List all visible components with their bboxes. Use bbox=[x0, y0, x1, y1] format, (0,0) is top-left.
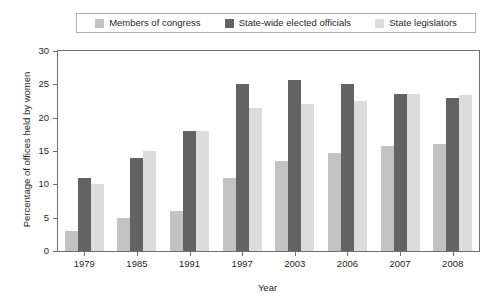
bar bbox=[433, 144, 446, 251]
x-axis-tick bbox=[137, 251, 138, 256]
x-axis-tick bbox=[190, 251, 191, 256]
x-axis-tick bbox=[453, 251, 454, 256]
chart-legend: Members of congress State-wide elected o… bbox=[76, 13, 476, 33]
bar bbox=[78, 178, 91, 251]
x-axis-tick-label: 1997 bbox=[232, 258, 253, 269]
legend-item-state-wide-elected-officials: State-wide elected officials bbox=[225, 18, 351, 28]
legend-item-members-of-congress: Members of congress bbox=[95, 18, 200, 28]
plot-area: 051015202530 197919851991199720032006200… bbox=[57, 50, 480, 252]
y-axis-tick-label: 15 bbox=[38, 145, 49, 156]
bar bbox=[249, 108, 262, 251]
y-axis-tick-label: 20 bbox=[38, 112, 49, 123]
x-axis-tick bbox=[347, 251, 348, 256]
legend-swatch-icon bbox=[375, 19, 384, 28]
bar bbox=[65, 231, 78, 251]
bar bbox=[183, 131, 196, 251]
x-axis-tick-label: 1985 bbox=[126, 258, 147, 269]
y-axis-tick-label: 5 bbox=[44, 212, 49, 223]
legend-label: Members of congress bbox=[109, 18, 200, 28]
bar-group bbox=[321, 51, 374, 251]
legend-swatch-icon bbox=[95, 19, 104, 28]
bar-group bbox=[374, 51, 427, 251]
y-axis-tick-label: 10 bbox=[38, 178, 49, 189]
x-axis-tick-label: 1991 bbox=[179, 258, 200, 269]
legend-item-state-legislators: State legislators bbox=[375, 18, 457, 28]
x-axis-tick bbox=[242, 251, 243, 256]
x-axis-label: Year bbox=[57, 282, 478, 293]
bar bbox=[407, 94, 420, 251]
bar bbox=[130, 158, 143, 251]
bar bbox=[341, 84, 354, 251]
bar bbox=[223, 178, 236, 251]
bar bbox=[394, 94, 407, 251]
x-axis-tick bbox=[295, 251, 296, 256]
x-axis-tick-label: 2006 bbox=[337, 258, 358, 269]
bar-group bbox=[111, 51, 164, 251]
x-axis-tick-label: 2003 bbox=[284, 258, 305, 269]
legend-label: State-wide elected officials bbox=[239, 18, 351, 28]
bar bbox=[381, 146, 394, 251]
bar bbox=[275, 161, 288, 251]
bar-group bbox=[216, 51, 269, 251]
bar bbox=[117, 218, 130, 251]
x-axis-tick bbox=[400, 251, 401, 256]
y-axis-tick: 0 bbox=[53, 251, 58, 252]
x-axis-tick-label: 2007 bbox=[389, 258, 410, 269]
legend-swatch-icon bbox=[225, 19, 234, 28]
bar-group bbox=[269, 51, 322, 251]
bar bbox=[459, 95, 472, 251]
bar bbox=[196, 131, 209, 251]
x-axis-tick-label: 2008 bbox=[442, 258, 463, 269]
bar-chart: Percentage of offices held by women 0510… bbox=[0, 40, 494, 305]
x-axis-tick-label: 1979 bbox=[74, 258, 95, 269]
y-axis-tick-label: 0 bbox=[44, 245, 49, 256]
bar bbox=[91, 184, 104, 251]
bar bbox=[288, 80, 301, 251]
x-axis-tick bbox=[84, 251, 85, 256]
bar-group bbox=[163, 51, 216, 251]
bar bbox=[354, 101, 367, 251]
bar-group bbox=[58, 51, 111, 251]
bar bbox=[446, 98, 459, 251]
y-axis-tick-label: 30 bbox=[38, 45, 49, 56]
bar bbox=[170, 211, 183, 251]
legend-label: State legislators bbox=[389, 18, 457, 28]
bar-group bbox=[426, 51, 479, 251]
y-axis-tick-label: 25 bbox=[38, 78, 49, 89]
bar bbox=[143, 151, 156, 251]
bar bbox=[236, 84, 249, 251]
y-axis-label: Percentage of offices held by women bbox=[21, 50, 32, 250]
bar bbox=[301, 104, 314, 251]
bar bbox=[328, 153, 341, 251]
